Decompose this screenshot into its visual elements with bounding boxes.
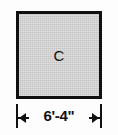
dimension-tail-left (18, 117, 29, 119)
extension-line-left (16, 104, 18, 128)
shape-square-c: C (16, 11, 102, 99)
shape-label: C (54, 48, 65, 63)
dimension-diagram: C 6'-4" (0, 0, 118, 135)
arrowhead-left-icon (19, 113, 26, 123)
extension-line-right (100, 104, 102, 128)
dimension-text: 6'-4" (0, 108, 118, 123)
arrowhead-right-icon (92, 113, 99, 123)
dimension-tail-right (89, 117, 100, 119)
